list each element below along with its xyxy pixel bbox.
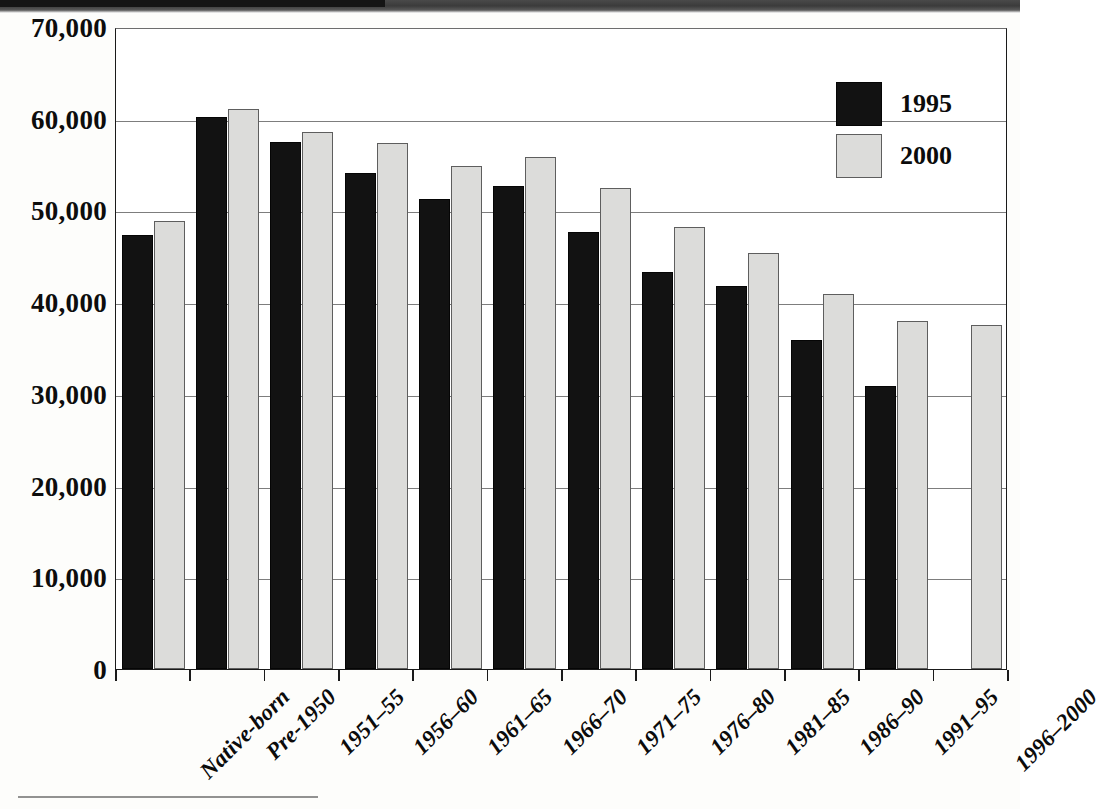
x-axis-label: 1996–2000 <box>1010 684 1100 777</box>
x-axis-label: 1951–55 <box>334 684 410 760</box>
legend-item-1995: 1995 <box>836 78 996 130</box>
x-axis-label: 1986–90 <box>854 684 930 760</box>
x-axis-label: 1956–60 <box>408 684 484 760</box>
legend-label-1995: 1995 <box>900 89 952 119</box>
legend-item-2000: 2000 <box>836 130 996 182</box>
x-axis-label: 1981–85 <box>780 684 856 760</box>
x-axis-label: 1961–65 <box>482 684 558 760</box>
legend-label-2000: 2000 <box>900 141 952 171</box>
legend-swatch-2000-icon <box>836 134 882 178</box>
legend-swatch-1995-icon <box>836 82 882 126</box>
x-axis-label: 1966–70 <box>557 684 633 760</box>
legend: 1995 2000 <box>836 78 996 182</box>
x-axis-label: 1971–75 <box>631 684 707 760</box>
x-axis-label: 1976–80 <box>705 684 781 760</box>
x-axis-label: 1991–95 <box>928 684 1004 760</box>
